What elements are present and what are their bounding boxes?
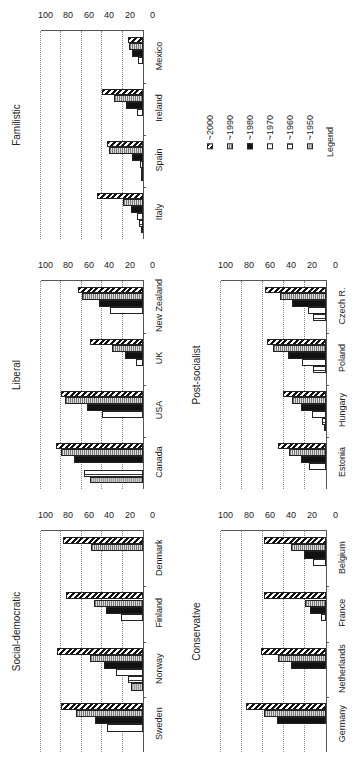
bar-canada-2000 [56, 443, 143, 450]
y-tick-label: 0 [316, 260, 338, 270]
panel-social-democratic: Social-democratic020406080100SwedenNorwa… [0, 500, 180, 763]
y-tick-label: 60 [72, 10, 94, 20]
bar-ireland-1990 [114, 95, 143, 102]
category-label: Hungary [337, 384, 347, 436]
panel-title: Liberal [11, 250, 22, 500]
bar-hungary-1990 [292, 397, 326, 404]
bar-czech-r--1970 [308, 307, 326, 314]
bar-czech-r--2000 [265, 287, 326, 294]
panel-post-socialist: Post-socialist020406080100EstoniaHungary… [180, 250, 363, 500]
bar-czech-r--1960 [313, 314, 326, 321]
bar-france-1990 [305, 600, 326, 607]
legend-label: ~1990 [225, 115, 235, 140]
bar-ireland-1980 [126, 102, 143, 109]
bar-uk-1970 [136, 359, 143, 366]
bar-spain-1990 [109, 147, 143, 154]
y-tick-label: 20 [113, 10, 135, 20]
bar-italy-1970 [137, 213, 143, 220]
bar-hungary-1950 [324, 425, 326, 432]
bar-canada-1950 [90, 477, 143, 484]
bar-canada-1960 [84, 470, 143, 477]
bar-norway-1960 [128, 676, 143, 683]
bar-poland-1980 [288, 352, 326, 359]
category-label: Estonia [337, 436, 347, 488]
bar-sweden-1990 [76, 710, 143, 717]
bar-sweden-2000 [61, 703, 143, 710]
bar-finland-1980 [106, 607, 143, 614]
bar-uk-1990 [112, 345, 143, 352]
bar-sweden-1980 [95, 717, 143, 724]
bar-italy-1980 [131, 206, 143, 213]
bar-denmark-1990 [91, 544, 143, 551]
bar-france-2000 [264, 592, 326, 599]
bar-estonia-1980 [301, 456, 326, 463]
bar-new-zealand-1980 [99, 300, 143, 307]
bar-usa-1980 [87, 404, 143, 411]
bar-usa-1990 [65, 397, 143, 404]
bar-new-zealand-2000 [78, 287, 143, 294]
bar-usa-1970 [102, 411, 143, 418]
bar-czech-r--1990 [280, 293, 326, 300]
category-label: Finland [154, 585, 164, 640]
y-tick-label: 100 [211, 260, 233, 270]
y-tick-label: 60 [72, 260, 94, 270]
bar-italy-1950 [141, 227, 143, 234]
category-label: Spain [154, 134, 164, 186]
legend-label: ~1970 [265, 115, 275, 140]
y-tick-label: 100 [31, 260, 53, 270]
legend-swatch-icon [247, 143, 253, 149]
gridline [220, 531, 221, 752]
category-tick [326, 333, 329, 334]
y-tick-label: 0 [133, 260, 155, 270]
y-tick-label: 80 [232, 510, 254, 520]
category-tick [326, 437, 329, 438]
category-label: USA [154, 384, 164, 436]
y-tick-label: 60 [253, 260, 275, 270]
bar-finland-1970 [121, 614, 143, 621]
category-tick [143, 437, 146, 438]
legend-title: Legend [325, 127, 335, 157]
bar-norway-1950 [131, 683, 143, 690]
category-label: Denmark [154, 530, 164, 585]
gridline [241, 531, 242, 752]
bar-belgium-1970 [313, 559, 326, 566]
bar-spain-1950 [141, 175, 143, 182]
bar-uk-1980 [125, 352, 143, 359]
bar-canada-1990 [61, 449, 143, 456]
legend-label: ~1950 [305, 115, 315, 140]
bar-hungary-2000 [283, 391, 326, 398]
bar-belgium-1980 [304, 551, 326, 558]
legend-swatch-icon [307, 143, 313, 149]
panel-title: Post-socialist [191, 250, 202, 500]
category-label: Italy [154, 186, 164, 238]
bar-ireland-1970 [137, 109, 143, 116]
y-tick-label: 20 [113, 260, 135, 270]
legend-swatch-icon [287, 143, 293, 149]
y-tick-label: 80 [51, 260, 73, 270]
bar-new-zealand-1990 [82, 293, 143, 300]
category-label: Ireland [154, 82, 164, 134]
category-label: Poland [337, 332, 347, 384]
bar-france-1980 [310, 607, 326, 614]
bar-denmark-2000 [63, 537, 143, 544]
category-tick [143, 187, 146, 188]
legend-swatch-icon [267, 143, 273, 149]
y-tick-label: 100 [31, 10, 53, 20]
bar-sweden-1970 [107, 724, 143, 731]
panel-title: Familistic [11, 0, 22, 250]
bar-ireland-2000 [102, 89, 143, 96]
legend-item-1990: ~1990 [225, 115, 235, 149]
category-tick [143, 385, 146, 386]
y-tick-label: 40 [92, 260, 114, 270]
y-tick-label: 100 [211, 510, 233, 520]
bar-estonia-1970 [309, 463, 326, 470]
y-tick-label: 80 [51, 10, 73, 20]
y-tick-label: 60 [253, 510, 275, 520]
legend-swatch-icon [207, 143, 213, 149]
bar-poland-2000 [267, 339, 326, 346]
gridline [40, 281, 41, 489]
panel-familistic: Familistic020406080100ItalySpainIrelandM… [0, 0, 180, 250]
gridline [122, 31, 123, 239]
y-tick-label: 0 [316, 510, 338, 520]
y-tick-label: 40 [92, 510, 114, 520]
